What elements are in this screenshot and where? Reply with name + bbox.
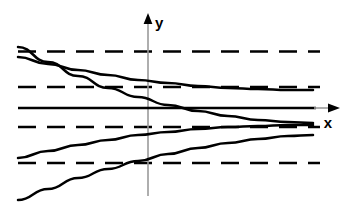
y-axis-label: y bbox=[155, 14, 164, 31]
curve-family-figure: y x bbox=[0, 0, 348, 213]
x-axis-label: x bbox=[324, 114, 333, 131]
figure-container: y x bbox=[0, 0, 348, 213]
